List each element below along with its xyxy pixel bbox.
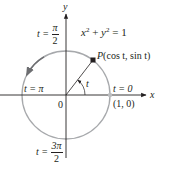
t-3pi-over-2-label: t = 3π2 bbox=[36, 141, 63, 164]
t-pi-over-2-den: 2 bbox=[53, 35, 58, 46]
point-p-label: P(cos t, sin t) bbox=[97, 51, 150, 61]
point-p-coords: (cos t, sin t) bbox=[103, 50, 150, 61]
point-1-0-label: (1, 0) bbox=[113, 99, 135, 109]
t-3pi-over-2-prefix: t = bbox=[36, 146, 51, 157]
equation-plus: + bbox=[89, 26, 101, 38]
y-axis-label: y bbox=[63, 2, 67, 12]
t-pi-label: t = π bbox=[24, 84, 44, 94]
t-3pi-over-2-den: 2 bbox=[54, 153, 59, 164]
t-pi-over-2-prefix: t = bbox=[37, 28, 52, 39]
t-pi-over-2-num: π bbox=[52, 23, 59, 35]
t-zero-label: t = 0 bbox=[113, 84, 133, 94]
circle-equation: x2 + y2 = 1 bbox=[81, 27, 127, 38]
origin-label: 0 bbox=[58, 100, 63, 110]
equation-rhs: = 1 bbox=[110, 26, 127, 38]
t-pi-over-2-label: t = π2 bbox=[37, 23, 59, 46]
point-1-0 bbox=[108, 93, 112, 97]
angle-t-label: t bbox=[86, 79, 89, 89]
direction-arrow-icon bbox=[27, 57, 44, 75]
angle-arc bbox=[78, 80, 85, 95]
t-3pi-over-2-num: 3π bbox=[51, 141, 63, 153]
point-p bbox=[91, 58, 96, 63]
x-axis-label: x bbox=[150, 90, 154, 100]
